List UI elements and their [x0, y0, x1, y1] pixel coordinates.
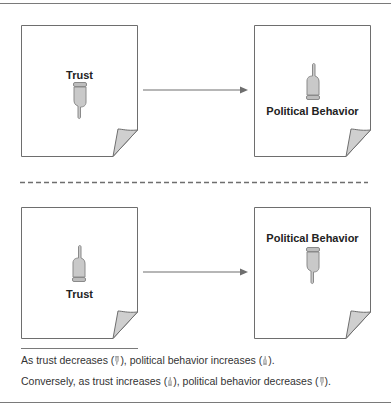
- top-border: [0, 3, 391, 4]
- caption-text: ).: [268, 354, 274, 366]
- arrow-right-icon-bottom: [142, 267, 252, 277]
- page-political-behavior-top: Political Behavior: [254, 25, 371, 157]
- label-trust: Trust: [21, 69, 138, 81]
- caption-text: ).: [325, 375, 331, 387]
- bottom-border: [0, 402, 391, 403]
- caption-text: Conversely, as trust increases (: [21, 375, 167, 387]
- label-trust: Trust: [21, 288, 138, 300]
- caption-text: As trust decreases (: [21, 354, 114, 366]
- caption-line-1: As trust decreases (), political behavio…: [21, 354, 275, 366]
- caption-text: ), political behavior decreases (: [173, 375, 318, 387]
- page-trust-top: Trust: [21, 25, 138, 157]
- caption-line-2: Conversely, as trust increases (), polit…: [21, 375, 331, 387]
- caption-text: ), political behavior increases (: [120, 354, 262, 366]
- hand-pointing-down-icon: [72, 82, 88, 120]
- caption-separator: [21, 348, 138, 349]
- page-political-behavior-bottom: Political Behavior: [254, 207, 371, 339]
- hand-pointing-down-icon: [305, 247, 321, 285]
- label-political-behavior: Political Behavior: [254, 232, 371, 244]
- dashed-divider: [20, 181, 370, 184]
- page-trust-bottom: Trust: [21, 207, 138, 339]
- arrow-right-icon-top: [142, 85, 252, 95]
- label-political-behavior: Political Behavior: [254, 105, 371, 117]
- hand-pointing-up-icon: [305, 63, 321, 101]
- hand-pointing-up-icon: [71, 245, 87, 283]
